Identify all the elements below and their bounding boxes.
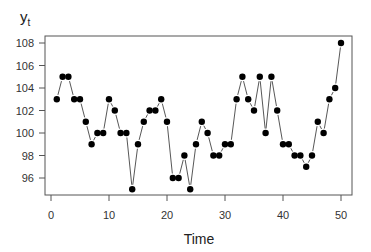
series-points [54, 40, 345, 193]
y-tick-label: 98 [22, 150, 34, 162]
data-point [222, 141, 228, 147]
data-point [257, 74, 263, 80]
data-point [135, 141, 141, 147]
x-tick-label: 20 [161, 209, 173, 221]
data-point [338, 40, 344, 46]
x-axis-title: Time [184, 231, 215, 247]
x-tick-label: 10 [103, 209, 115, 221]
data-point [123, 130, 129, 136]
data-point [286, 141, 292, 147]
data-point [216, 152, 222, 158]
data-point [83, 119, 89, 125]
plot-frame [45, 36, 352, 195]
data-point [94, 130, 100, 136]
data-point [291, 152, 297, 158]
x-tick-label: 30 [219, 209, 231, 221]
data-point [228, 141, 234, 147]
data-point [280, 141, 286, 147]
data-point [71, 96, 77, 102]
data-point [65, 74, 71, 80]
data-point [315, 119, 321, 125]
data-point [146, 107, 152, 113]
data-point [262, 130, 268, 136]
data-point [158, 96, 164, 102]
y-tick-label: 96 [22, 172, 34, 184]
data-point [54, 96, 60, 102]
y-axis-title: yt [20, 8, 31, 28]
data-point [199, 119, 205, 125]
data-point [187, 186, 193, 192]
data-point [326, 96, 332, 102]
data-point [170, 175, 176, 181]
data-point [193, 141, 199, 147]
data-point [274, 107, 280, 113]
x-tick-label: 40 [277, 209, 289, 221]
data-point [106, 96, 112, 102]
x-axis: 01020304050 [48, 195, 347, 221]
time-series-chart: 9698100102104106108 01020304050 yt Time [0, 0, 371, 252]
data-point [59, 74, 65, 80]
data-point [251, 107, 257, 113]
data-point [303, 164, 309, 170]
data-point [175, 175, 181, 181]
data-point [332, 85, 338, 91]
data-point [152, 107, 158, 113]
data-point [245, 96, 251, 102]
data-point [181, 152, 187, 158]
data-point [141, 119, 147, 125]
data-point [129, 186, 135, 192]
data-point [88, 141, 94, 147]
data-point [112, 107, 118, 113]
data-point [309, 152, 315, 158]
data-point [233, 96, 239, 102]
data-point [239, 74, 245, 80]
data-point [204, 130, 210, 136]
y-tick-label: 100 [16, 127, 34, 139]
data-point [100, 130, 106, 136]
data-point [268, 74, 274, 80]
x-tick-label: 0 [48, 209, 54, 221]
y-axis: 9698100102104106108 [16, 37, 45, 184]
y-tick-label: 106 [16, 60, 34, 72]
x-tick-label: 50 [335, 209, 347, 221]
y-tick-label: 108 [16, 37, 34, 49]
data-point [77, 96, 83, 102]
y-tick-label: 104 [16, 82, 34, 94]
data-point [320, 130, 326, 136]
data-point [210, 152, 216, 158]
data-point [117, 130, 123, 136]
data-point [164, 119, 170, 125]
y-tick-label: 102 [16, 105, 34, 117]
series-line [58, 47, 341, 184]
data-point [297, 152, 303, 158]
